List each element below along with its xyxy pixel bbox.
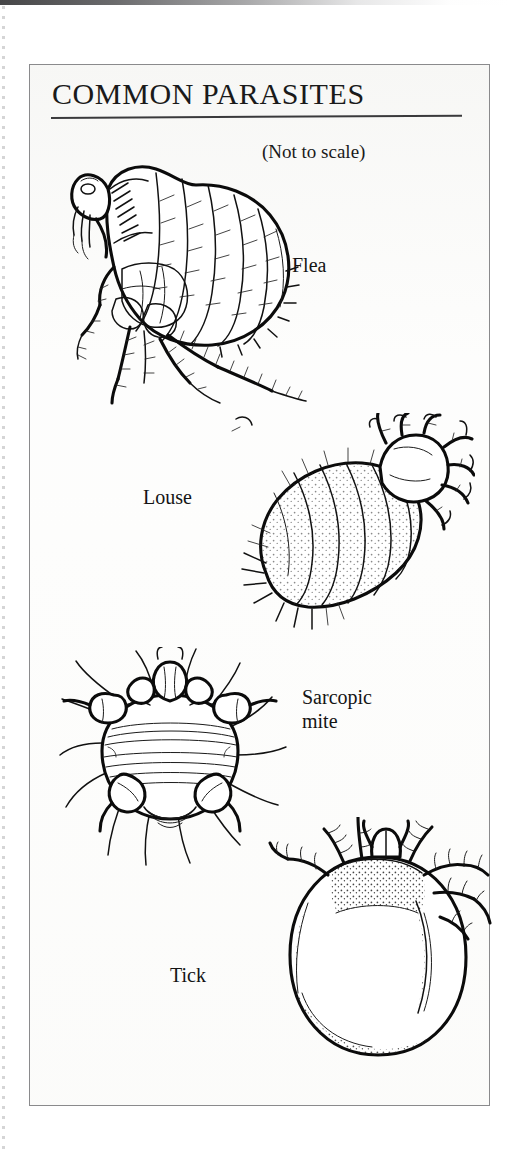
label-mite-line-1: Sarcopic (302, 685, 372, 709)
label-flea-line-1: Flea (292, 253, 326, 277)
label-mite-line-2: mite (302, 709, 372, 733)
scan-edge-left (2, 6, 5, 1156)
page-title: COMMON PARASITES (52, 77, 365, 111)
label-louse: Louse (143, 485, 192, 509)
page-frame: COMMON PARASITES (Not to scale) (29, 64, 490, 1106)
label-flea: Flea (292, 253, 326, 277)
label-tick: Tick (170, 963, 206, 987)
label-sarcopic-mite: Sarcopic mite (302, 685, 372, 734)
label-louse-line-1: Louse (143, 485, 192, 509)
sarcopic-mite-illustration (58, 647, 290, 869)
parasites-illustration-page: COMMON PARASITES (Not to scale) (0, 0, 512, 1156)
label-tick-line-1: Tick (170, 963, 206, 987)
tick-illustration (268, 817, 496, 1065)
scan-edge-top (0, 0, 512, 5)
title-divider-rule (51, 115, 462, 119)
flea-illustration (56, 149, 308, 405)
louse-illustration (230, 413, 475, 649)
